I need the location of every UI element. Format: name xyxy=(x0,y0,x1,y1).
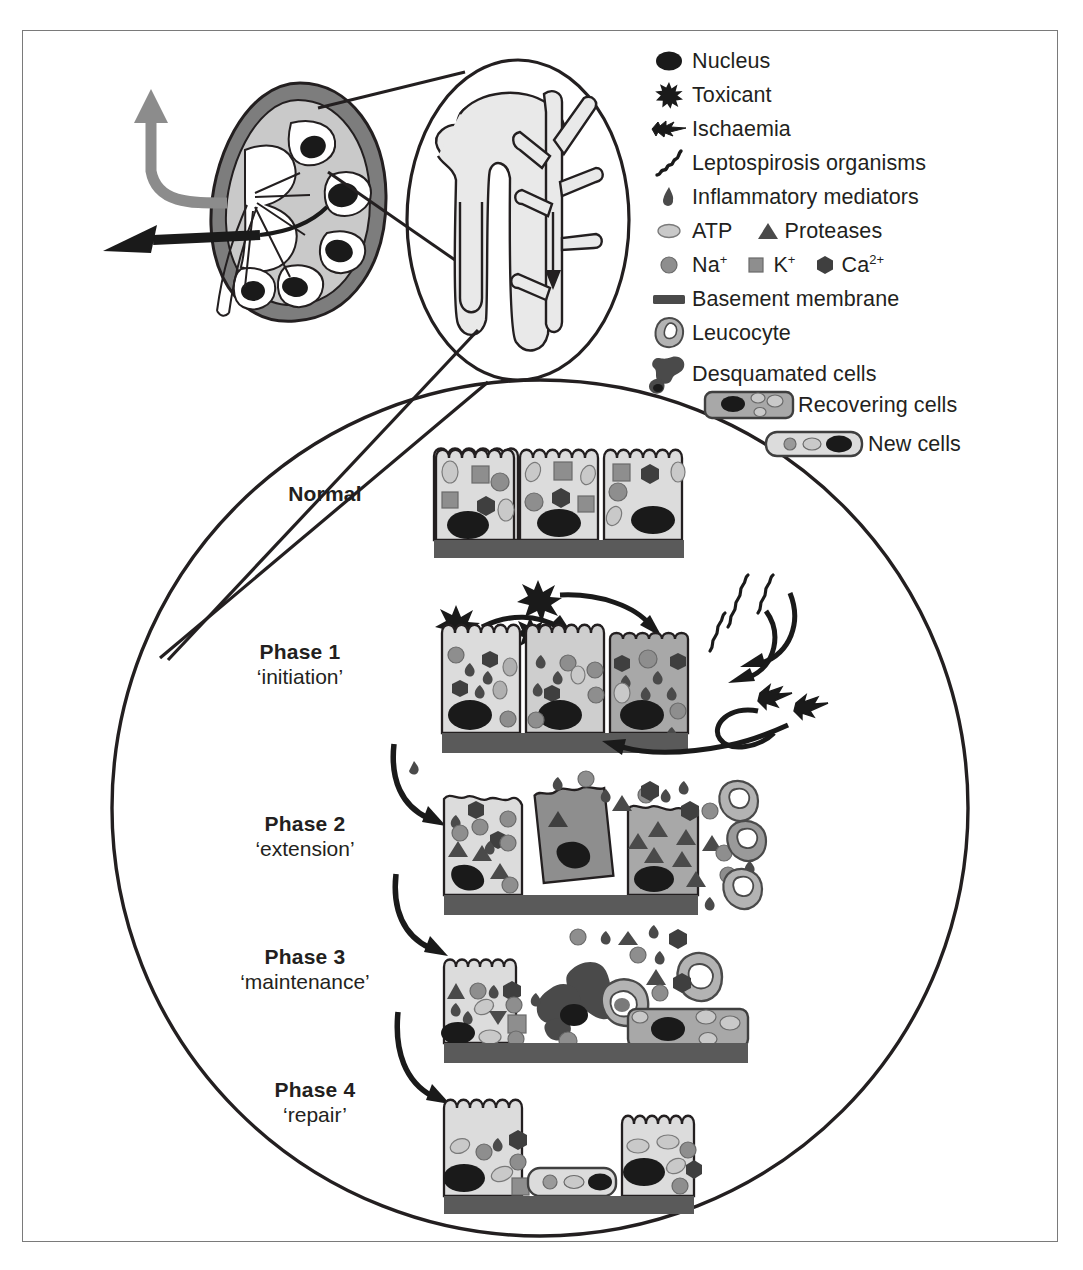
legend-label-atp: ATP xyxy=(692,219,733,244)
recovering-cell-icon xyxy=(700,388,798,422)
legend-item-ischaemia: Ischaemia xyxy=(646,112,1066,146)
legend-label: Toxicant xyxy=(692,83,772,108)
figure-root: Nucleus Toxicant Ischaemia xyxy=(0,0,1083,1270)
stage-title: Phase 2 xyxy=(200,812,410,836)
calcium-hexagon-icon xyxy=(808,254,842,276)
basement-membrane xyxy=(444,895,698,915)
legend-label: Inflammatory mediators xyxy=(692,185,919,210)
protease-triangle-icon xyxy=(751,221,785,241)
nucleus-icon xyxy=(646,50,692,72)
sodium-circle-icon xyxy=(646,255,692,275)
stage-title: Phase 3 xyxy=(190,945,420,969)
legend-label: Leucocyte xyxy=(692,321,791,346)
stage-label-phase3: Phase 3 ‘maintenance’ xyxy=(190,945,420,994)
legend-label: Recovering cells xyxy=(798,393,957,418)
legend-item-toxicant: Toxicant xyxy=(646,78,1066,112)
legend-item-nucleus: Nucleus xyxy=(646,44,1066,78)
stage-label-phase4: Phase 4 ‘repair’ xyxy=(215,1078,415,1127)
inflammatory-mediator-icon xyxy=(646,185,692,209)
stage-subtitle: ‘repair’ xyxy=(215,1103,415,1127)
ischaemia-bolt-icon xyxy=(646,118,692,140)
basement-membrane xyxy=(434,540,684,558)
stage-title: Normal xyxy=(230,482,420,506)
new-cell-icon xyxy=(528,1168,616,1196)
legend: Nucleus Toxicant Ischaemia xyxy=(646,44,1066,398)
stage-title: Phase 1 xyxy=(200,640,400,664)
legend-item-atp-proteases: ATP Proteases xyxy=(646,214,1066,248)
stage-title: Phase 4 xyxy=(215,1078,415,1102)
legend-label-calcium: Ca2+ xyxy=(842,252,885,278)
stage-label-normal: Normal xyxy=(230,482,420,506)
legend-label-sodium: Na+ xyxy=(692,252,727,278)
legend-item-ions: Na+ K+ Ca2+ xyxy=(646,248,1066,282)
atp-oval-icon xyxy=(646,222,692,240)
legend-item-inflammatory-mediators: Inflammatory mediators xyxy=(646,180,1066,214)
legend-item-basement-membrane: Basement membrane xyxy=(646,282,1066,316)
legend-label: Leptospirosis organisms xyxy=(692,151,926,176)
stage-subtitle: ‘initiation’ xyxy=(200,665,400,689)
legend-label: Nucleus xyxy=(692,49,770,74)
stage-subtitle: ‘maintenance’ xyxy=(190,970,420,994)
desquamated-cells-icon xyxy=(646,351,692,397)
leptospirosis-squiggle-icon xyxy=(710,575,773,651)
legend-label: New cells xyxy=(868,432,961,457)
stage-diagram-phase4 xyxy=(428,1060,738,1220)
legend-item-new-cells: New cells xyxy=(760,428,1060,460)
recovering-cell-icon xyxy=(628,1009,748,1047)
toxicant-star-icon xyxy=(646,81,692,109)
legend-label-potassium: K+ xyxy=(773,252,795,278)
basement-membrane xyxy=(444,1196,694,1214)
legend-label-proteases: Proteases xyxy=(785,219,883,244)
ischaemia-bolt-icon xyxy=(758,685,828,719)
legend-label: Ischaemia xyxy=(692,117,791,142)
leptospirosis-squiggle-icon xyxy=(646,148,692,178)
new-cell-icon xyxy=(760,428,868,460)
potassium-square-icon xyxy=(739,255,773,275)
stage-diagram-normal xyxy=(428,420,698,565)
legend-label: Basement membrane xyxy=(692,287,899,312)
legend-item-leucocyte: Leucocyte xyxy=(646,316,1066,350)
stage-label-phase2: Phase 2 ‘extension’ xyxy=(200,812,410,861)
legend-label: Desquamated cells xyxy=(692,362,877,387)
basement-membrane-bar-icon xyxy=(646,292,692,306)
legend-item-leptospirosis: Leptospirosis organisms xyxy=(646,146,1066,180)
stage-label-phase1: Phase 1 ‘initiation’ xyxy=(200,640,400,689)
leucocyte-icon xyxy=(646,316,692,350)
legend-item-recovering-cells: Recovering cells xyxy=(700,388,1060,422)
stage-subtitle: ‘extension’ xyxy=(200,837,410,861)
